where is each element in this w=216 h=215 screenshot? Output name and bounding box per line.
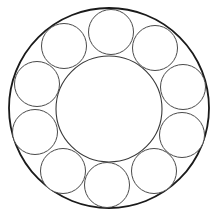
small-circle-right-lower <box>160 113 205 158</box>
small-circle-left-upper <box>15 62 60 107</box>
inner-circle <box>56 56 162 162</box>
small-circle-left-lower <box>13 110 58 155</box>
small-circle-top <box>89 10 134 55</box>
small-circle-upper-left <box>42 24 87 69</box>
small-circle-lower-left <box>41 149 86 194</box>
small-circle-upper-right <box>133 26 178 71</box>
circle-packing-diagram <box>0 0 216 215</box>
small-circle-bottom <box>85 163 130 208</box>
small-circle-right-upper <box>161 65 206 110</box>
small-circle-lower-right <box>132 149 177 194</box>
